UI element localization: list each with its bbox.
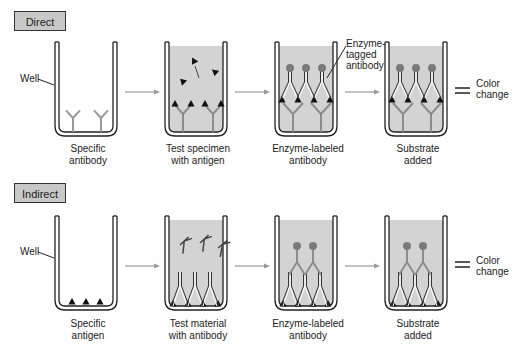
enzyme-icon	[286, 64, 294, 72]
antibody-icon	[94, 110, 108, 132]
enzyme-icon	[302, 64, 310, 72]
enzyme-icon	[309, 242, 317, 250]
well-pointer	[38, 252, 54, 258]
equals-icon	[455, 88, 470, 93]
antigen-icon	[68, 298, 75, 304]
enzyme-icon	[293, 242, 301, 250]
antigen-icon	[96, 298, 103, 304]
arrow-head-icon	[154, 264, 160, 269]
arrow-head-icon	[264, 90, 270, 95]
arrow-head-icon	[374, 90, 380, 95]
enzyme-icon	[419, 242, 427, 250]
antibody-icon	[66, 110, 80, 132]
elisa-diagram	[0, 0, 517, 344]
well-inner-wall	[59, 216, 113, 306]
arrow-head-icon	[154, 90, 160, 95]
enzyme-icon	[412, 64, 420, 72]
well-inner-wall	[59, 42, 113, 132]
well-pointer	[38, 79, 54, 85]
antigen-icon	[82, 298, 89, 304]
well-outer-wall	[55, 42, 117, 136]
well-fill	[169, 46, 223, 132]
arrow-head-icon	[374, 264, 380, 269]
enzyme-icon	[403, 242, 411, 250]
enzyme-icon	[396, 64, 404, 72]
equals-icon	[455, 262, 470, 267]
arrow-head-icon	[264, 264, 270, 269]
enzyme-icon	[318, 64, 326, 72]
enzyme-icon	[428, 64, 436, 72]
well-outer-wall	[55, 216, 117, 310]
